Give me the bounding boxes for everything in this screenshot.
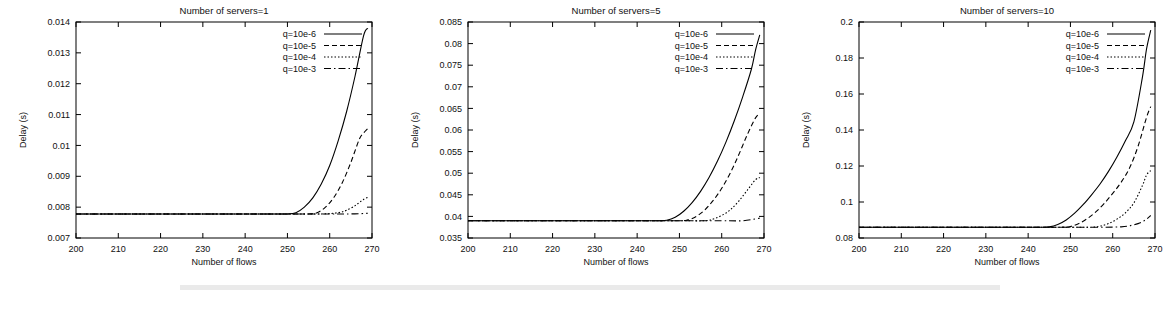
x-tick-label: 260 xyxy=(714,244,729,254)
series-line-q-10e-4 xyxy=(859,171,1151,228)
y-tick-label: 0.012 xyxy=(47,79,70,89)
legend-label-0: q=10e-6 xyxy=(675,29,708,39)
y-tick-label: 0.014 xyxy=(47,17,70,27)
x-tick-label: 210 xyxy=(894,244,909,254)
x-tick-label: 240 xyxy=(1021,244,1036,254)
chart-svg: Number of servers=10.0070.0080.0090.010.… xyxy=(0,0,392,270)
y-tick-label: 0.011 xyxy=(48,110,70,120)
plot-frame xyxy=(468,22,764,238)
y-tick-label: 0.035 xyxy=(439,233,462,243)
y-tick-label: 0.01 xyxy=(52,141,70,151)
legend-label-2: q=10e-4 xyxy=(1066,52,1099,62)
y-tick-label: 0.08 xyxy=(444,39,462,49)
legend-label-1: q=10e-5 xyxy=(283,41,316,51)
x-tick-label: 260 xyxy=(1105,244,1120,254)
y-axis-label: Delay (s) xyxy=(18,112,28,148)
series-line-q-10e-6 xyxy=(859,30,1151,227)
y-tick-label: 0.2 xyxy=(840,17,853,27)
series-group xyxy=(859,30,1151,227)
x-tick-label: 200 xyxy=(851,244,866,254)
x-tick-label: 220 xyxy=(545,244,560,254)
y-axis-label: Delay (s) xyxy=(801,112,811,148)
y-tick-label: 0.045 xyxy=(439,190,462,200)
series-line-q-10e-3 xyxy=(859,216,1151,228)
x-tick-label: 230 xyxy=(195,244,210,254)
x-tick-label: 200 xyxy=(68,244,83,254)
series-line-q-10e-6 xyxy=(468,35,760,221)
plot-frame xyxy=(76,22,372,238)
legend: q=10e-6q=10e-5q=10e-4q=10e-3 xyxy=(283,29,362,73)
x-tick-label: 250 xyxy=(280,244,295,254)
chart-title: Number of servers=5 xyxy=(572,5,661,16)
legend-label-3: q=10e-3 xyxy=(283,64,316,74)
legend-label-0: q=10e-6 xyxy=(1066,29,1099,39)
x-tick-label: 240 xyxy=(238,244,253,254)
chart-title: Number of servers=1 xyxy=(180,5,269,16)
y-tick-label: 0.06 xyxy=(444,125,462,135)
legend: q=10e-6q=10e-5q=10e-4q=10e-3 xyxy=(1066,29,1145,73)
y-tick-label: 0.013 xyxy=(47,48,70,58)
x-tick-label: 270 xyxy=(756,244,771,254)
chart-panel-servers-10: Number of servers=100.080.10.120.140.160… xyxy=(783,0,1175,270)
y-tick-label: 0.009 xyxy=(47,171,70,181)
chart-svg: Number of servers=100.080.10.120.140.160… xyxy=(783,0,1175,270)
x-axis-label: Number of flows xyxy=(583,257,649,267)
legend-label-2: q=10e-4 xyxy=(283,52,316,62)
x-tick-label: 250 xyxy=(1063,244,1078,254)
x-axis-label: Number of flows xyxy=(974,257,1040,267)
series-group xyxy=(76,28,368,214)
x-tick-label: 210 xyxy=(111,244,126,254)
legend: q=10e-6q=10e-5q=10e-4q=10e-3 xyxy=(675,29,754,73)
series-line-q-10e-5 xyxy=(859,107,1151,228)
chart-svg: Number of servers=50.0350.040.0450.050.0… xyxy=(392,0,784,270)
series-line-q-10e-6 xyxy=(76,28,368,214)
legend-label-3: q=10e-3 xyxy=(1066,64,1099,74)
legend-label-3: q=10e-3 xyxy=(675,64,708,74)
y-tick-label: 0.18 xyxy=(835,53,853,63)
chart-panel-servers-5: Number of servers=50.0350.040.0450.050.0… xyxy=(392,0,784,270)
y-tick-label: 0.04 xyxy=(444,212,462,222)
x-tick-label: 220 xyxy=(153,244,168,254)
x-tick-label: 270 xyxy=(364,244,379,254)
series-line-q-10e-3 xyxy=(468,218,760,221)
y-tick-label: 0.05 xyxy=(444,168,462,178)
y-tick-label: 0.085 xyxy=(439,17,462,27)
y-tick-label: 0.008 xyxy=(47,202,70,212)
series-line-q-10e-3 xyxy=(76,213,368,214)
y-tick-label: 0.14 xyxy=(835,125,853,135)
series-line-q-10e-5 xyxy=(76,128,368,214)
y-tick-label: 0.12 xyxy=(835,161,853,171)
legend-label-1: q=10e-5 xyxy=(1066,41,1099,51)
x-axis-label: Number of flows xyxy=(191,257,257,267)
scan-artifact xyxy=(180,285,1000,290)
legend-label-2: q=10e-4 xyxy=(675,52,708,62)
x-tick-label: 240 xyxy=(630,244,645,254)
series-line-q-10e-5 xyxy=(468,114,760,221)
x-tick-label: 260 xyxy=(322,244,337,254)
y-tick-label: 0.075 xyxy=(439,60,462,70)
chart-title: Number of servers=10 xyxy=(960,5,1054,16)
legend-label-1: q=10e-5 xyxy=(675,41,708,51)
y-tick-label: 0.1 xyxy=(840,197,853,207)
legend-label-0: q=10e-6 xyxy=(283,29,316,39)
x-tick-label: 200 xyxy=(460,244,475,254)
x-tick-label: 270 xyxy=(1147,244,1162,254)
x-tick-label: 210 xyxy=(503,244,518,254)
y-tick-label: 0.08 xyxy=(835,233,853,243)
y-tick-label: 0.16 xyxy=(835,89,853,99)
x-tick-label: 230 xyxy=(978,244,993,254)
x-tick-label: 230 xyxy=(587,244,602,254)
series-line-q-10e-4 xyxy=(468,178,760,221)
chart-panel-servers-1: Number of servers=10.0070.0080.0090.010.… xyxy=(0,0,392,270)
y-tick-label: 0.07 xyxy=(444,82,462,92)
y-tick-label: 0.007 xyxy=(47,233,70,243)
y-tick-label: 0.065 xyxy=(439,104,462,114)
figure-container: Number of servers=10.0070.0080.0090.010.… xyxy=(0,0,1175,309)
y-axis-label: Delay (s) xyxy=(410,112,420,148)
series-line-q-10e-4 xyxy=(76,197,368,214)
y-tick-label: 0.055 xyxy=(439,147,462,157)
series-group xyxy=(468,35,760,221)
x-tick-label: 250 xyxy=(672,244,687,254)
x-tick-label: 220 xyxy=(936,244,951,254)
plot-frame xyxy=(859,22,1155,238)
